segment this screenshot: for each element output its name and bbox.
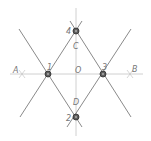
label-d: D xyxy=(73,98,79,107)
diagram-canvas: A B O C D 1 2 3 4 xyxy=(0,0,151,141)
label-point-2: 2 xyxy=(66,114,71,123)
point-4 xyxy=(73,28,79,34)
label-a: A xyxy=(12,66,18,75)
label-b: B xyxy=(132,65,138,74)
label-o: O xyxy=(75,66,81,75)
point-2 xyxy=(73,114,79,120)
label-c: C xyxy=(73,42,79,51)
label-point-3: 3 xyxy=(102,63,107,72)
label-point-4: 4 xyxy=(66,27,71,36)
label-point-1: 1 xyxy=(47,63,52,72)
